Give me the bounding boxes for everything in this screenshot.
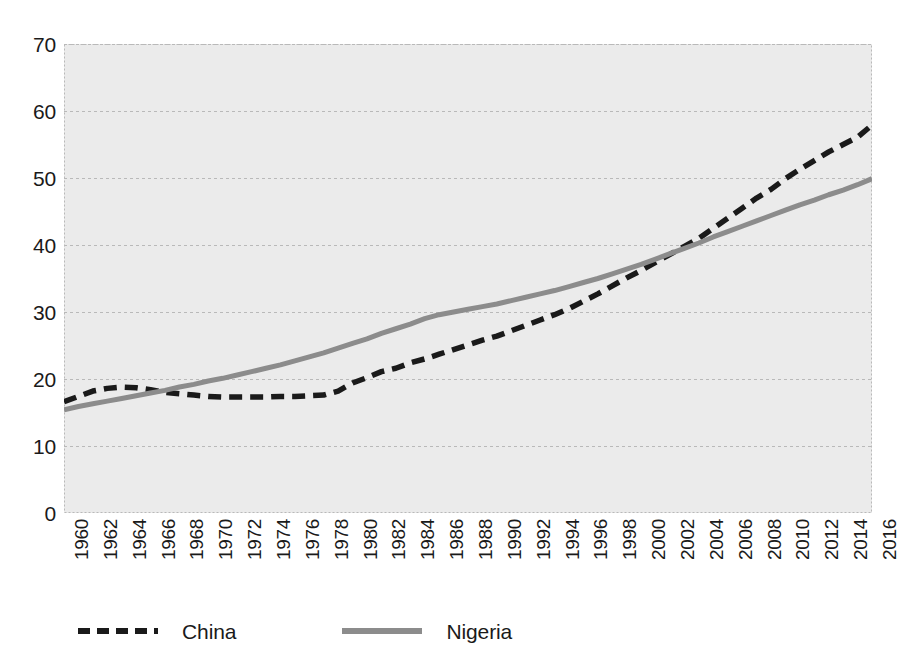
series-line-nigeria <box>64 179 872 410</box>
y-tick-label: 30 <box>0 302 56 323</box>
x-axis: 1960196219641966196819701972197419761978… <box>64 519 872 609</box>
x-tick-label-text: 2006 <box>736 519 755 560</box>
x-tick-label-text: 2012 <box>822 519 841 560</box>
x-tick-label: 1962 <box>101 519 120 560</box>
x-tick-label: 2006 <box>736 519 755 560</box>
x-tick-label-text: 1996 <box>591 519 610 560</box>
x-tick-label: 1996 <box>591 519 610 560</box>
plot-area <box>64 44 872 513</box>
x-tick-label-text: 1982 <box>389 519 408 560</box>
x-tick-label: 1966 <box>159 519 178 560</box>
legend-label-nigeria: Nigeria <box>446 621 512 642</box>
x-tick-label-text: 1962 <box>101 519 120 560</box>
plot-canvas <box>64 44 872 513</box>
x-tick-label-text: 2010 <box>793 519 812 560</box>
x-tick-label-text: 1988 <box>476 519 495 560</box>
y-tick-label: 70 <box>0 34 56 55</box>
plot-border-rect <box>65 45 872 513</box>
legend-item-china[interactable]: China <box>76 621 236 642</box>
dashed-line-icon <box>76 624 160 638</box>
x-tick-label-text: 2016 <box>880 519 899 560</box>
plot-border <box>65 45 872 513</box>
x-tick-label-text: 1966 <box>159 519 178 560</box>
x-tick-label: 1994 <box>563 519 582 560</box>
x-tick-label-text: 1990 <box>505 519 524 560</box>
x-tick-label: 1998 <box>620 519 639 560</box>
x-tick-label-text: 2004 <box>707 519 726 560</box>
line-chart: 706050403020100 196019621964196619681970… <box>0 0 901 656</box>
x-tick-label: 1988 <box>476 519 495 560</box>
x-tick-label: 1964 <box>130 519 149 560</box>
x-tick-label: 2010 <box>793 519 812 560</box>
y-tick-label: 60 <box>0 101 56 122</box>
x-tick-label: 1982 <box>389 519 408 560</box>
x-tick-label: 1976 <box>303 519 322 560</box>
x-tick-label: 2008 <box>765 519 784 560</box>
x-tick-label: 1968 <box>187 519 206 560</box>
x-tick-label-text: 1986 <box>447 519 466 560</box>
x-tick-label: 1990 <box>505 519 524 560</box>
x-tick-label: 1974 <box>274 519 293 560</box>
x-tick-label: 1980 <box>361 519 380 560</box>
x-tick-label-text: 1984 <box>418 519 437 560</box>
solid-line-icon <box>340 624 424 638</box>
x-tick-label: 1984 <box>418 519 437 560</box>
chart-legend: China Nigeria <box>64 614 872 648</box>
x-tick-label-text: 1970 <box>216 519 235 560</box>
y-tick-label: 40 <box>0 235 56 256</box>
x-tick-label-text: 2014 <box>851 519 870 560</box>
series-line-china <box>64 125 872 402</box>
x-tick-label-text: 1994 <box>563 519 582 560</box>
legend-label-china: China <box>182 621 236 642</box>
series-lines <box>64 125 872 410</box>
x-tick-label-text: 1992 <box>534 519 553 560</box>
legend-item-nigeria[interactable]: Nigeria <box>340 621 512 642</box>
y-tick-label: 0 <box>0 503 56 524</box>
y-tick-label: 50 <box>0 168 56 189</box>
x-tick-label: 1960 <box>72 519 91 560</box>
y-tick-label: 20 <box>0 369 56 390</box>
x-tick-label-text: 1978 <box>332 519 351 560</box>
x-tick-label: 1970 <box>216 519 235 560</box>
x-tick-label-text: 2002 <box>678 519 697 560</box>
x-tick-label: 2014 <box>851 519 870 560</box>
x-tick-label-text: 2008 <box>765 519 784 560</box>
x-tick-label-text: 1964 <box>130 519 149 560</box>
x-tick-label: 1972 <box>245 519 264 560</box>
x-tick-label-text: 1968 <box>187 519 206 560</box>
x-tick-label-text: 1972 <box>245 519 264 560</box>
x-tick-label-text: 1998 <box>620 519 639 560</box>
x-tick-label: 2004 <box>707 519 726 560</box>
x-tick-label-text: 1976 <box>303 519 322 560</box>
x-tick-label-text: 1980 <box>361 519 380 560</box>
x-tick-label: 1992 <box>534 519 553 560</box>
x-tick-label: 1986 <box>447 519 466 560</box>
y-tick-label: 10 <box>0 436 56 457</box>
x-tick-label: 1978 <box>332 519 351 560</box>
x-tick-label: 2016 <box>880 519 899 560</box>
x-tick-label: 2000 <box>649 519 668 560</box>
y-axis: 706050403020100 <box>0 0 56 656</box>
x-tick-label: 2002 <box>678 519 697 560</box>
x-tick-label-text: 1974 <box>274 519 293 560</box>
x-tick-label-text: 2000 <box>649 519 668 560</box>
x-tick-label-text: 1960 <box>72 519 91 560</box>
x-tick-label: 2012 <box>822 519 841 560</box>
